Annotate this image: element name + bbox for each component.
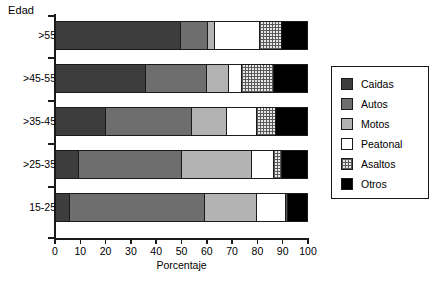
x-axis-tick	[54, 239, 56, 244]
x-axis-tick	[130, 239, 132, 244]
legend-item: Motos	[341, 114, 428, 134]
legend-swatch-otros	[341, 178, 353, 190]
bar-segment-asaltos	[260, 22, 282, 49]
bar-segment-autos	[146, 65, 206, 92]
y-axis-tick	[48, 57, 55, 59]
legend-swatch-peatonal	[341, 138, 353, 150]
x-axis-tick	[257, 239, 259, 244]
y-axis-title: Edad	[8, 4, 34, 16]
bar-segment-otros	[276, 108, 307, 135]
bar-segment-peatonal	[215, 22, 260, 49]
x-axis-tick	[206, 239, 208, 244]
bar-segment-motos	[182, 151, 252, 178]
y-axis-tick	[48, 100, 55, 102]
category-label: >35-45	[23, 115, 56, 127]
legend-item: Autos	[341, 94, 428, 114]
bar-segment-caidas	[56, 151, 79, 178]
bar-segment-otros	[282, 151, 307, 178]
x-axis-tick	[282, 239, 284, 244]
legend-label: Otros	[361, 178, 387, 190]
legend: CaidasAutosMotosPeatonalAsaltosOtros	[331, 66, 429, 199]
bar-segment-peatonal	[229, 65, 242, 92]
bar-row	[55, 107, 308, 136]
x-axis-tick	[155, 239, 157, 244]
x-axis-tick	[105, 239, 107, 244]
bar-segment-peatonal	[227, 108, 257, 135]
bar-segment-asaltos	[242, 65, 275, 92]
legend-item: Otros	[341, 174, 428, 194]
x-axis-tick	[231, 239, 233, 244]
legend-label: Peatonal	[361, 138, 402, 150]
bar-segment-motos	[205, 194, 257, 221]
x-axis-tick-label: 100	[293, 245, 323, 257]
x-axis-tick	[80, 239, 82, 244]
bar-segment-caidas	[56, 108, 106, 135]
bar-segment-otros	[288, 194, 307, 221]
x-axis-title: Porcentaje	[54, 259, 309, 271]
bar-segment-autos	[106, 108, 191, 135]
bar-segment-autos	[79, 151, 182, 178]
bar-segment-asaltos	[274, 151, 282, 178]
category-label: >45-55	[23, 72, 56, 84]
bar-segment-autos	[181, 22, 208, 49]
y-axis-tick	[48, 143, 55, 145]
bar-segment-caidas	[56, 194, 70, 221]
bar-segment-peatonal	[252, 151, 275, 178]
legend-label: Asaltos	[361, 158, 395, 170]
x-axis-tick	[307, 239, 309, 244]
legend-item: Peatonal	[341, 134, 428, 154]
bar-segment-peatonal	[257, 194, 286, 221]
bar-segment-autos	[70, 194, 205, 221]
legend-label: Autos	[361, 98, 388, 110]
legend-item: Caidas	[341, 74, 428, 94]
legend-label: Motos	[361, 118, 390, 130]
legend-swatch-autos	[341, 98, 353, 110]
category-label: >55	[38, 29, 56, 41]
legend-label: Caidas	[361, 78, 394, 90]
bar-row	[55, 150, 308, 179]
bar-segment-caidas	[56, 22, 181, 49]
bar-segment-asaltos	[257, 108, 276, 135]
bar-segment-motos	[192, 108, 227, 135]
bar-segment-otros	[282, 22, 307, 49]
legend-item: Asaltos	[341, 154, 428, 174]
bar-segment-caidas	[56, 65, 146, 92]
bar-row	[55, 64, 308, 93]
bar-row	[55, 21, 308, 50]
legend-swatch-caidas	[341, 78, 353, 90]
bar-row	[55, 193, 308, 222]
bar-segment-motos	[207, 65, 230, 92]
category-label: 15-25	[29, 201, 56, 213]
y-axis-tick	[48, 15, 55, 17]
y-axis-tick	[48, 186, 55, 188]
category-label: >25-35	[23, 158, 56, 170]
x-axis-tick	[181, 239, 183, 244]
bar-segment-otros	[274, 65, 307, 92]
legend-swatch-motos	[341, 118, 353, 130]
stacked-bar-chart: Edad 0102030405060708090100 >55>45-55>35…	[0, 0, 437, 283]
legend-swatch-asaltos	[341, 158, 353, 170]
